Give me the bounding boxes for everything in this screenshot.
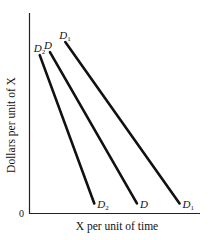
demand-chart: 0 Dollars per unit of X X per unit of ti… xyxy=(0,0,212,240)
curve-label-top-d1: D1 xyxy=(58,29,71,43)
y-axis-label: Dollars per unit of X xyxy=(5,76,18,173)
x-axis-label: X per unit of time xyxy=(76,220,158,233)
curve-d2 xyxy=(40,55,95,203)
curve-label-bottom-d2: D2 xyxy=(96,198,109,212)
curve-label-top-d: D xyxy=(43,39,52,51)
demand-curves: D2D2DDD1D1 xyxy=(33,29,195,212)
curve-label-bottom-d1: D1 xyxy=(182,198,195,212)
origin-label: 0 xyxy=(19,208,24,219)
curve-label-bottom-d: D xyxy=(139,198,148,210)
curve-d xyxy=(50,52,137,203)
